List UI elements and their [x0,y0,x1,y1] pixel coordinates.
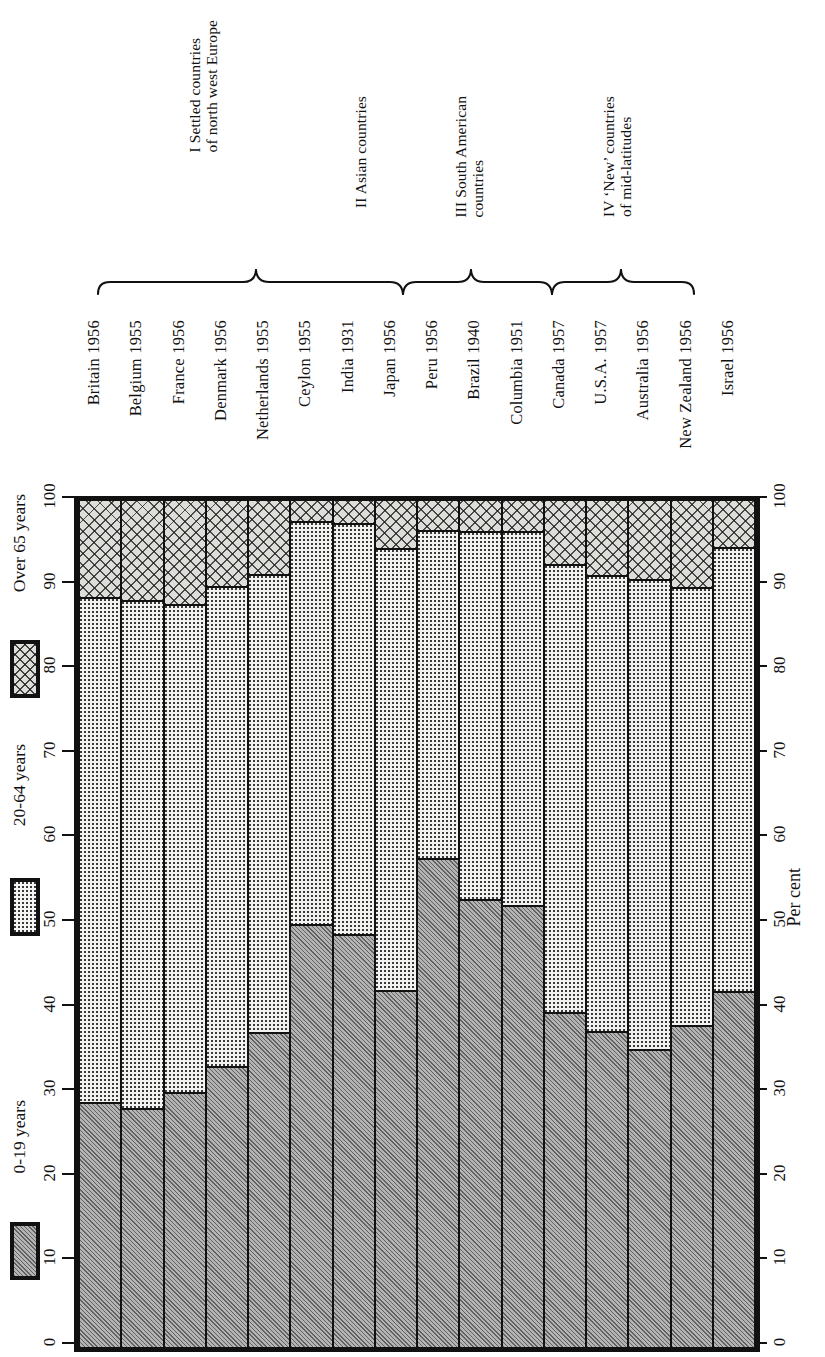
axis-tick [755,1257,767,1259]
axis-tick-label: 20 [41,1164,58,1181]
axis-tick [755,581,767,583]
axis-tick [755,665,767,667]
bar-segment-over-65 [249,501,289,574]
axis-tick-label: 70 [771,741,788,758]
legend-label-old: Over 65 years [10,494,30,634]
axis-tick-label: 100 [771,483,788,509]
bar-segment-over-65 [165,501,205,604]
axis-tick [755,834,767,836]
bar-segment-0-19 [334,934,374,1347]
bar-segment-over-65 [207,501,247,586]
axis-tick [62,1088,74,1090]
axis-tick-label: 90 [771,572,788,589]
legend-label-old-text: Over 65 years [10,494,30,592]
stacked-bar[interactable] [206,501,248,1347]
legend-label-mid: 20-64 years [10,744,30,870]
bar-segment-20-64 [460,531,500,899]
y-axis-title: Per cent [784,868,804,931]
axis-tick-label: 90 [41,572,58,589]
axis-tick-label: 30 [41,1080,58,1097]
stacked-bar[interactable] [164,501,206,1347]
stacked-bar[interactable] [417,501,459,1347]
bar-segment-over-65 [672,501,712,587]
bar-segment-0-19 [249,1032,289,1347]
bar-segment-20-64 [672,587,712,1024]
stacked-bar[interactable] [248,501,290,1347]
stacked-bar[interactable] [671,501,713,1347]
bar-segment-over-65 [714,501,754,547]
bar-segment-over-65 [545,501,585,564]
bar-segment-over-65 [629,501,669,579]
axis-tick [62,496,74,498]
bar-segment-0-19 [376,990,416,1347]
axis-tick [62,665,74,667]
bar-segment-0-19 [587,1031,627,1347]
bar-segment-0-19 [460,899,500,1347]
stacked-bar[interactable] [79,501,121,1347]
bar-segment-20-64 [334,523,374,934]
bar-segment-over-65 [587,501,627,575]
axis-tick [62,1342,74,1344]
axis-tick-label: 20 [771,1164,788,1181]
axis-tick-label: 10 [771,1249,788,1266]
axis-tick-label: 50 [41,911,58,928]
bar-segment-over-65 [291,501,331,521]
bar-segment-0-19 [207,1066,247,1347]
y-axis-left: 0102030405060708090100 [34,496,74,1342]
bar-segment-0-19 [122,1108,162,1347]
bar-segment-0-19 [291,924,331,1347]
bar-segment-0-19 [545,1012,585,1347]
axis-tick-label: 70 [41,741,58,758]
stacked-bar[interactable] [459,501,501,1347]
axis-tick-label: 60 [771,826,788,843]
bar-segment-20-64 [418,530,458,858]
stacked-bar[interactable] [628,501,670,1347]
bar-segment-over-65 [376,501,416,548]
stacked-bar[interactable] [586,501,628,1347]
axis-tick [62,1257,74,1259]
stacked-bar[interactable] [121,501,163,1347]
bar-segment-over-65 [460,501,500,531]
axis-tick [62,1004,74,1006]
axis-tick [755,750,767,752]
axis-tick [62,581,74,583]
stacked-bar[interactable] [502,501,544,1347]
axis-tick-label: 80 [771,657,788,674]
bar-segment-20-64 [629,579,669,1049]
bar-segment-20-64 [714,547,754,991]
axis-tick [755,1173,767,1175]
stacked-bar[interactable] [333,501,375,1347]
axis-tick-label: 80 [41,657,58,674]
bar-segment-over-65 [503,501,543,531]
bar-segment-over-65 [334,501,374,523]
axis-tick [755,1088,767,1090]
bar-segment-0-19 [672,1025,712,1347]
axis-tick-label: 100 [41,483,58,509]
axis-tick [62,919,74,921]
axis-tick-label: 0 [771,1338,788,1347]
bar-segment-20-64 [291,521,331,924]
stacked-bars-container [74,496,760,1352]
stacked-bar[interactable] [375,501,417,1347]
bar-segment-over-65 [80,501,120,597]
bar-segment-20-64 [249,574,289,1033]
stacked-bar[interactable] [290,501,332,1347]
bar-segment-0-19 [80,1102,120,1347]
legend-swatch-old [10,640,40,698]
axis-tick-label: 10 [41,1249,58,1266]
bar-segment-20-64 [207,586,247,1067]
legend-label-young: 0-19 years [10,1100,30,1212]
legend-label-young-text: 0-19 years [10,1100,30,1173]
stacked-bar[interactable] [544,501,586,1347]
stacked-bar[interactable] [713,501,755,1347]
axis-tick-label: 30 [771,1080,788,1097]
axis-tick-label: 40 [771,995,788,1012]
bar-segment-0-19 [714,991,754,1347]
chart-plot-area [0,0,825,1357]
bar-segment-20-64 [545,564,585,1012]
bar-segment-20-64 [165,604,205,1091]
bar-segment-20-64 [503,531,543,904]
axis-tick-label: 0 [41,1338,58,1347]
bar-segment-20-64 [122,600,162,1108]
axis-tick [755,1004,767,1006]
